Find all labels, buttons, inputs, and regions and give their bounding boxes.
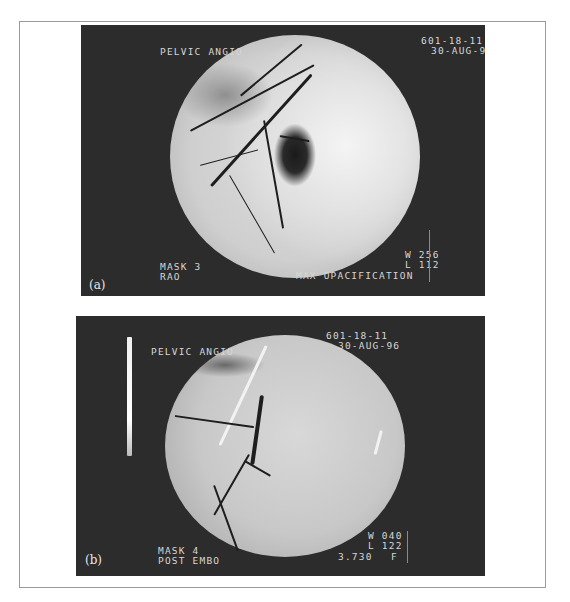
header-date: 30-AUG-96 (431, 46, 485, 56)
vessel (190, 64, 315, 131)
vessel (229, 175, 275, 253)
fluoroscopy-field-a (170, 35, 420, 278)
footer-phase: MAX OPACIFICATION (296, 271, 414, 281)
header-study-title: PELVIC ANGIO (151, 347, 234, 357)
header-study-title: PELVIC ANGIO (160, 47, 243, 57)
footer-level: L 112 (405, 260, 440, 270)
vessel (213, 454, 250, 516)
footer-flag: F (391, 552, 398, 562)
footer-value: 3.730 (338, 552, 373, 562)
footer-status: POST EMBO (158, 556, 220, 566)
vessel (250, 395, 264, 465)
angiogram-panel-b: PELVIC ANGIO 601-18-11 30-AUG-96 MASK 4 … (76, 316, 485, 576)
panel-label-a: (a) (89, 278, 106, 292)
vessel (175, 415, 254, 428)
calibration-bar (127, 337, 132, 456)
footer-level: L 122 (368, 541, 403, 551)
vessel (210, 74, 313, 187)
vessel (280, 135, 310, 142)
scale-tick-line (407, 531, 408, 563)
catheter-marker (374, 430, 383, 455)
angiogram-panel-a: PELVIC ANGIO 601-18-11 30-AUG-96 MASK 3 … (81, 25, 485, 296)
panel-label-b: (b) (85, 553, 102, 567)
vessel (244, 460, 271, 477)
header-date: 30-AUG-96 (338, 341, 400, 351)
footer-view: RAO (160, 272, 181, 282)
fluoroscopy-field-b (165, 335, 405, 557)
scale-tick-line (429, 230, 430, 282)
